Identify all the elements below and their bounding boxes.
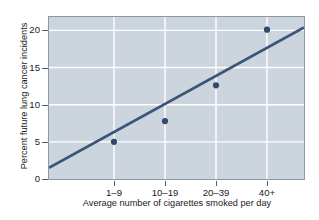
y-tick-label: 0 — [0, 174, 40, 184]
y-axis-ticks: 05101520 — [0, 0, 40, 220]
x-tick-label: 40+ — [237, 187, 297, 198]
y-tick-mark — [42, 179, 48, 180]
x-tick-mark — [114, 181, 115, 186]
x-tick-mark — [216, 181, 217, 186]
x-tick-mark — [165, 181, 166, 186]
x-tick-mark — [267, 181, 268, 186]
y-tick-mark — [42, 142, 48, 143]
chart-figure: Percent future lung cancer incidents 051… — [0, 0, 319, 220]
plot-canvas — [49, 17, 304, 179]
y-tick-label: 5 — [0, 137, 40, 147]
y-tick-mark — [42, 68, 48, 69]
y-tick-label: 10 — [0, 100, 40, 110]
vertical-gridlines — [114, 17, 267, 179]
y-tick-mark — [42, 105, 48, 106]
y-tick-label: 15 — [0, 63, 40, 73]
y-tick-label: 20 — [0, 25, 40, 35]
data-points — [111, 27, 270, 145]
x-axis-label: Average number of cigarettes smoked per … — [48, 198, 306, 208]
plot-area — [48, 16, 305, 180]
trend-line — [49, 27, 304, 167]
y-tick-mark — [42, 30, 48, 31]
